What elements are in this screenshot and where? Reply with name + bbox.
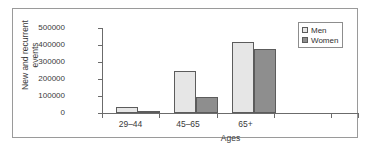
legend-item-men: Men [302,25,338,35]
y-tick-label-100000: 100000 [38,92,65,100]
legend-label-men: Men [311,26,327,35]
x-tick-label-45-65: 45–65 [159,120,217,129]
bar-women-29-44 [138,111,160,113]
bar-men-29-44 [116,107,138,113]
y-tick-label-300000: 300000 [38,58,65,66]
y-tick-label-0: 0 [61,109,65,117]
y-tick-label-500000: 500000 [38,24,65,32]
bar-men-65plus [232,42,254,113]
legend-label-women: Women [311,36,338,45]
legend-swatch-women-icon [302,37,308,43]
x-axis-line [102,113,359,114]
x-tick-mark-3 [274,114,275,118]
y-tick-label-400000: 400000 [38,41,65,49]
y-axis-title: New and recurrent events [20,7,40,103]
bar-men-45-65 [174,71,196,113]
x-tick-mark-1 [159,114,160,118]
x-tick-mark-0 [102,114,103,118]
x-axis-title: Ages [102,133,359,143]
chart-frame: New and recurrent events 500000 400000 3… [12,8,358,138]
x-tick-label-65plus: 65+ [217,120,274,129]
y-tick-label-200000: 200000 [38,75,65,83]
y-axis-title-line2: events [30,7,40,103]
legend-item-women: Women [302,35,338,45]
x-tick-mark-2 [217,114,218,118]
y-axis-title-line1: New and recurrent [20,7,30,103]
chart-figure: New and recurrent events 500000 400000 3… [0,0,373,153]
legend-swatch-men-icon [302,27,308,33]
bar-women-45-65 [196,97,218,113]
bar-women-65plus [254,49,276,113]
x-tick-mark-4 [331,114,332,118]
chart-legend: Men Women [298,22,343,48]
x-tick-mark-5 [358,114,359,118]
x-tick-label-29-44: 29–44 [102,120,159,129]
